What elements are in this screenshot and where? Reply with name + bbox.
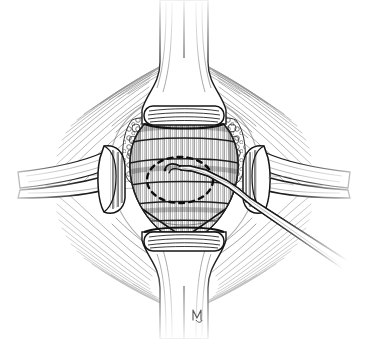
figure-panel-d: D [0, 0, 368, 339]
edge-vignette [0, 0, 368, 339]
surgical-illustration [0, 0, 368, 339]
